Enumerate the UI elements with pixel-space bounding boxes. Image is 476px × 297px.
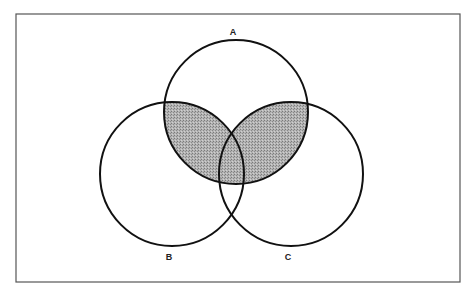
shaded-region-a-intersect-b-union-c xyxy=(100,102,363,246)
set-a-label: A xyxy=(230,27,237,37)
set-c-label: C xyxy=(285,252,292,262)
set-b-label: B xyxy=(166,252,173,262)
venn-diagram: A B C xyxy=(0,0,476,297)
